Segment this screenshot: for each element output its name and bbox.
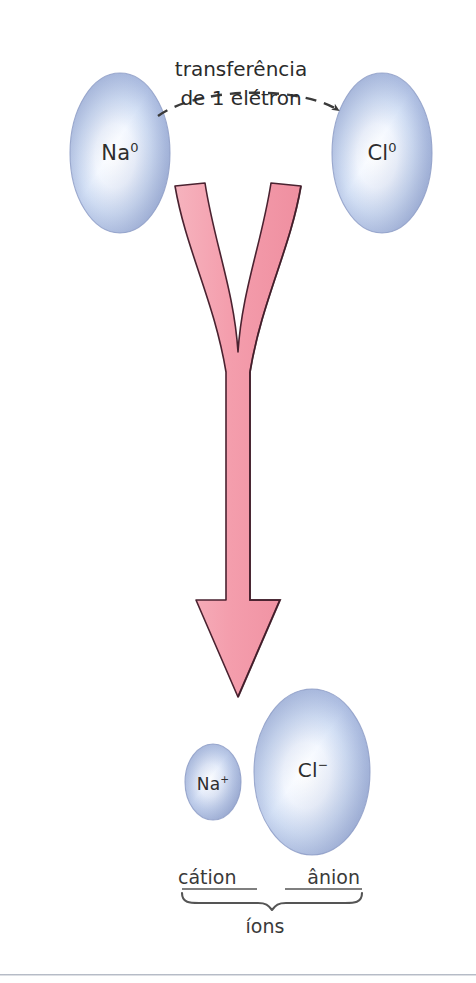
sodium-cation-charge: +: [220, 773, 229, 785]
ions-caption: íons: [150, 915, 380, 937]
sodium-cation-label: Na+: [180, 773, 246, 794]
ionic-bond-diagram: transferência de 1 elétron Na0 Cl0 Na+ C…: [0, 0, 476, 983]
ions-brace: [182, 893, 362, 910]
electron-transfer-arrow: [175, 183, 301, 697]
transfer-line-1: transferência: [126, 55, 356, 84]
bottom-divider: [0, 974, 476, 976]
cation-caption: cátion: [150, 866, 236, 888]
sodium-atom-charge: 0: [130, 140, 138, 155]
chlorine-atom-charge: 0: [388, 140, 396, 155]
anion-caption: ânion: [307, 866, 380, 888]
chlorine-atom-label: Cl0: [340, 140, 424, 165]
transfer-annotation: transferência de 1 elétron: [126, 55, 356, 113]
transfer-line-2: de 1 elétron: [126, 84, 356, 113]
chloride-anion-label: Cl−: [278, 757, 348, 782]
chloride-anion-charge: −: [318, 757, 328, 772]
sodium-atom-label: Na0: [78, 140, 162, 165]
ion-type-captions: cátion ânion: [150, 866, 380, 888]
